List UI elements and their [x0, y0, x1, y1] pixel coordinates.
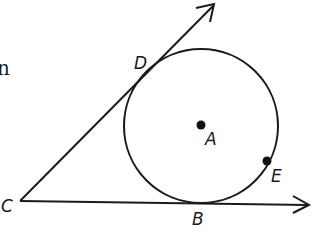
cropped-text-fragment: n	[0, 56, 10, 80]
label-c: C	[1, 196, 13, 216]
label-b: B	[192, 209, 204, 229]
geometry-diagram: n D A E B C	[0, 0, 312, 232]
ray-cd	[20, 6, 213, 201]
label-e: E	[271, 166, 282, 186]
ray-cb	[20, 201, 308, 205]
label-d: D	[134, 53, 147, 73]
label-a: A	[204, 129, 217, 149]
point-e-dot	[263, 157, 272, 166]
